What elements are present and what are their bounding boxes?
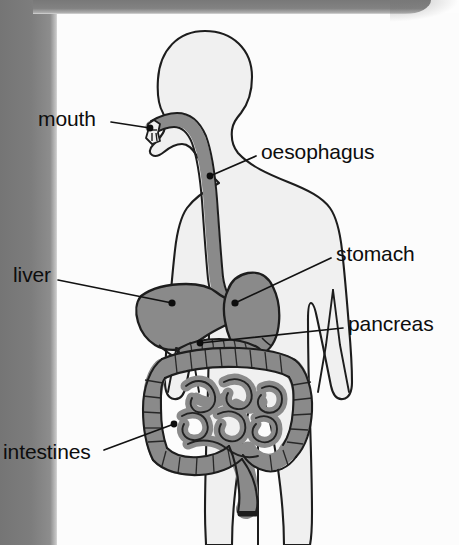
leader-dot-pancreas xyxy=(197,340,204,347)
leader-dot-liver xyxy=(168,299,175,306)
mouth-organ xyxy=(146,120,160,144)
label-liver: liver xyxy=(13,264,51,285)
page-edge-shadow-top xyxy=(33,0,431,14)
leader-line-mouth xyxy=(111,122,150,128)
digestive-system-diagram-page: mouth oesophagus stomach pancreas liver … xyxy=(0,0,459,545)
label-oesophagus: oesophagus xyxy=(261,141,374,162)
label-intestines: intestines xyxy=(3,441,91,462)
page-edge-shadow-corner xyxy=(390,0,459,22)
leader-dot-mouth xyxy=(147,125,154,132)
label-pancreas: pancreas xyxy=(348,313,434,334)
anatomy-illustration xyxy=(0,0,459,545)
leader-dot-oesophagus xyxy=(207,173,214,180)
leader-dot-intestines xyxy=(171,421,178,428)
leader-dot-stomach xyxy=(231,299,238,306)
label-stomach: stomach xyxy=(336,243,415,264)
label-mouth: mouth xyxy=(38,108,96,129)
